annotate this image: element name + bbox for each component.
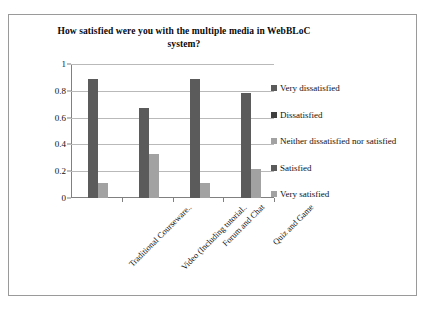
legend-item-label: Very dissatisfied: [280, 83, 407, 94]
chart-figure: How satisfied were you with the multiple…: [8, 14, 417, 296]
x-tick-mark: [122, 198, 123, 202]
bar-group: [223, 64, 274, 198]
y-tick-label: 0: [62, 193, 67, 203]
bar: [98, 183, 108, 198]
legend-item[interactable]: Very satisfied: [271, 189, 407, 200]
y-tick-label: 0.2: [55, 166, 66, 176]
bar: [190, 79, 200, 198]
legend-item[interactable]: Dissatisfied: [271, 110, 407, 121]
y-tick-label: 0.4: [55, 139, 66, 149]
legend-swatch-icon: [271, 191, 277, 197]
plot-area: 00.20.40.60.81: [71, 64, 274, 198]
bar: [88, 79, 98, 198]
x-tick-mark: [223, 198, 224, 202]
y-tick-label: 1: [62, 59, 67, 69]
legend-item-label: Very satisfied: [280, 189, 407, 200]
legend-item[interactable]: Very dissatisfied: [271, 83, 407, 94]
bar: [149, 154, 159, 198]
bar-group: [173, 64, 224, 198]
bar: [251, 169, 261, 198]
bar-group: [122, 64, 173, 198]
legend-item-label: Dissatisfied: [280, 110, 407, 121]
chart-legend: Very dissatisfiedDissatisfiedNeither dis…: [271, 83, 407, 216]
chart-title: How satisfied were you with the multiple…: [53, 25, 315, 50]
legend-swatch-icon: [271, 138, 277, 144]
legend-item-label: Satisfied: [280, 163, 407, 174]
legend-swatch-icon: [271, 85, 277, 91]
bar-group: [71, 64, 122, 198]
bar: [200, 183, 210, 198]
legend-item[interactable]: Satisfied: [271, 163, 407, 174]
legend-item[interactable]: Neither dissatisfied nor satisfied: [271, 136, 407, 147]
legend-item-label: Neither dissatisfied nor satisfied: [280, 136, 407, 147]
legend-swatch-icon: [271, 165, 277, 171]
y-tick-label: 0.6: [55, 113, 66, 123]
y-tick-label: 0.8: [55, 86, 66, 96]
x-tick-mark: [173, 198, 174, 202]
legend-swatch-icon: [271, 112, 277, 118]
bar: [241, 93, 251, 198]
bar: [139, 108, 149, 198]
